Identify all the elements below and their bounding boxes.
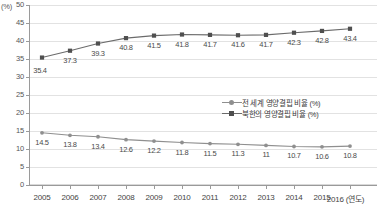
data-point-marker [208,33,212,37]
data-point-marker [180,141,184,145]
data-label: 41.6 [231,40,244,49]
series-line [42,29,350,58]
data-point-marker [40,55,44,59]
legend-marker-circle-icon [222,98,242,108]
data-point-marker [180,32,184,36]
data-label: 13.4 [91,142,104,151]
legend-label-northkorea: 북한의 영양결핍 비율 (%) [242,108,318,119]
data-point-marker [348,27,352,31]
data-point-marker [264,33,268,37]
legend-item-northkorea[interactable]: 북한의 영양결핍 비율 (%) [222,108,362,119]
data-label: 42.8 [315,36,328,45]
data-label: 41.7 [203,40,216,49]
data-label: 41.5 [147,41,160,50]
data-label: 11.5 [204,149,217,158]
legend-marker-square-icon [222,109,242,119]
data-label: 11 [262,150,269,159]
data-point-marker [96,41,100,45]
data-label: 11.3 [232,149,245,158]
legend-item-world[interactable]: 전 세계 영양결핍 비율 (%) [222,97,362,108]
data-label: 41.7 [259,40,272,49]
data-label: 40.8 [119,43,132,52]
data-label: 13.8 [63,140,76,149]
data-point-marker [68,133,72,137]
data-point-marker [208,142,212,146]
data-point-marker [236,33,240,37]
data-point-marker [348,144,352,148]
data-label: 10.8 [343,151,356,160]
data-label: 11.8 [176,148,189,157]
data-label: 12.6 [119,145,132,154]
data-label: 42.3 [287,38,300,47]
data-label: 39.3 [91,49,104,58]
data-point-marker [264,144,268,148]
data-point-marker [68,49,72,53]
data-point-marker [236,142,240,146]
data-point-marker [320,29,324,33]
data-point-marker [152,34,156,38]
data-point-marker [320,145,324,149]
series-line [42,133,350,147]
data-label: 14.5 [35,138,48,147]
legend-label-world: 전 세계 영양결핍 비율 (%) [242,97,320,108]
malnutrition-line-chart: (%) 50454035302520151050 200520062007200… [0,0,382,209]
chart-legend: 전 세계 영양결핍 비율 (%) 북한의 영양결핍 비율 (%) [222,95,362,121]
data-label: 12.2 [147,146,160,155]
data-point-marker [292,145,296,149]
data-label: 10.7 [287,151,300,160]
data-point-marker [152,139,156,143]
data-label: 41.8 [175,40,188,49]
data-label: 10.6 [315,152,328,161]
data-point-marker [40,131,44,135]
data-label: 37.3 [63,56,76,65]
data-label: 43.4 [343,34,356,43]
data-point-marker [124,36,128,40]
data-label: 35.4 [33,66,46,75]
data-point-marker [124,138,128,142]
data-point-marker [292,31,296,35]
data-point-marker [96,135,100,139]
